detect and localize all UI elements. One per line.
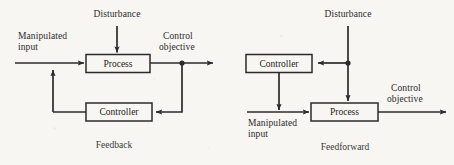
feedback-control-objective-label-line1: Control: [163, 31, 193, 42]
feedback-manipulated-input-label-line2: input: [18, 42, 38, 53]
feedforward-controller-label: Controller: [259, 58, 298, 69]
feedback-controller-label: Controller: [99, 107, 138, 118]
feedback-measurement-path-arrow: [156, 63, 182, 112]
feedforward-control-objective-label-line2: objective: [387, 94, 423, 105]
feedforward-disturbance-label: Disturbance: [325, 9, 372, 20]
feedback-control-objective-label-line2: objective: [159, 42, 195, 53]
feedback-disturbance-label: Disturbance: [94, 9, 141, 20]
feedback-process-label: Process: [103, 58, 132, 69]
feedforward-manipulated-input-label-line1: Manipulated: [248, 118, 297, 129]
feedback-manipulated-input-label-line1: Manipulated: [18, 31, 67, 42]
feedforward-process-label: Process: [330, 107, 359, 118]
feedforward-manipulated-input-label-line2: input: [248, 129, 268, 140]
feedforward-caption: Feedforward: [321, 142, 370, 152]
diagram-canvas: [0, 0, 454, 165]
feedback-caption: Feedback: [96, 140, 132, 150]
figure-block-diagrams: Process Controller Disturbance Manipulat…: [0, 0, 454, 165]
feedforward-control-objective-label-line1: Control: [391, 83, 421, 94]
